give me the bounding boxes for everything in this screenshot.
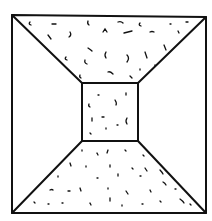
diagonal-bottom-left (12, 141, 82, 213)
inner-square (82, 83, 138, 141)
stipple-bottom-trapezoid (34, 150, 191, 206)
perspective-box-diagram (0, 0, 212, 221)
diagonal-top-left (12, 15, 82, 83)
stipple-back-wall (89, 93, 127, 134)
diagonal-bottom-right (138, 141, 206, 213)
stipple-top-trapezoid (29, 21, 188, 78)
diagonal-top-right (138, 17, 206, 83)
